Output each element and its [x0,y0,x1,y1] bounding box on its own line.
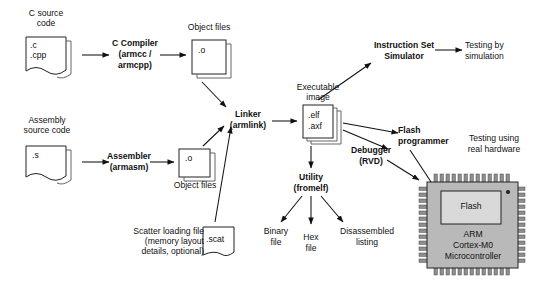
label-debugger: Debugger (RVD) [344,145,398,166]
label-disassembled-listing: Disassembled listing [330,226,404,247]
label-executable-ext: .elf .axf [308,110,334,131]
label-utility: Utility (fromelf) [283,172,339,194]
label-linker: Linker (armlink) [222,109,274,131]
label-instruction-set-simulator: Instruction Set Simulator [368,40,440,61]
label-testing-using-real-hardware: Testing using real hardware [455,133,533,154]
arrow-utility-to-disassembled [321,196,343,222]
arrow-objects-to-linker-top [202,82,226,107]
label-object-ext-top: .o [198,45,216,55]
label-object-files-bottom: Object files [164,180,226,190]
label-chip-flash: Flash [441,201,501,211]
label-c-compiler: C Compiler (armcc / armcpp) [92,38,178,71]
label-scatter-caption: Scatter loading file (memory layout deta… [114,226,204,256]
arrow-utility-to-binary [281,196,302,222]
arrow-objects-to-linker-bottom [203,126,224,146]
diagram-canvas: C source code .c .cpp C Compiler (armcc … [0,0,545,287]
label-flash-programmer: Flash programmer [398,125,456,146]
label-scatter-ext: .scat [206,234,232,244]
arrow-scatter-to-linker [215,127,231,222]
label-object-files-top: Object files [178,22,240,32]
label-hex-file: Hex file [291,232,331,253]
label-assembly-source-ext: .s [32,150,54,160]
label-executable-image: Executable image [288,82,348,102]
arrow-image-to-flash-programmer [343,123,398,133]
label-c-source-ext: .c .cpp [30,40,62,60]
label-assembler: Assembler (armasm) [96,151,162,173]
label-testing-by-simulation: Testing by simulation [465,40,527,61]
label-object-ext-bottom: .o [185,153,203,163]
label-assembly-source-caption: Assembly source code [11,115,83,135]
label-chip-name: ARM Cortex-M0 Microcontroller [432,229,514,262]
label-c-source-caption: C source code [14,8,78,28]
